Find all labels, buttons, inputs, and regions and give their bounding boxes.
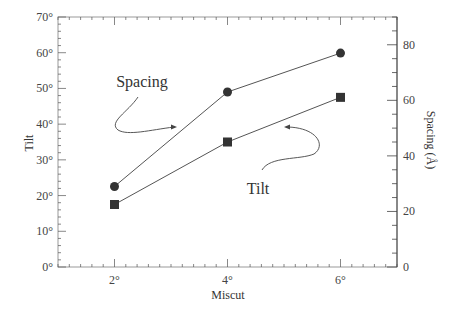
y-tick-label: 40° <box>36 117 53 131</box>
y-tick-label: 50° <box>36 81 53 95</box>
annotation-spacing-arrow <box>115 97 174 133</box>
x-tick-label: 4° <box>222 273 233 287</box>
y2-tick-label: 80 <box>403 38 415 52</box>
y2-tick-label: 20 <box>403 204 415 218</box>
circle-marker-icon <box>110 182 119 191</box>
annotation-tilt-arrow <box>262 127 319 170</box>
chart: 2°4°6°0°10°20°30°40°50°60°70°020406080 M… <box>0 0 455 311</box>
x-axis-label: Miscut <box>211 288 245 302</box>
circle-marker-icon <box>336 49 345 58</box>
series-line-tilt <box>115 97 341 204</box>
square-marker-icon <box>110 200 119 209</box>
arrowhead-icon <box>171 125 177 130</box>
y-tick-label: 70° <box>36 10 53 24</box>
arrowhead-icon <box>284 125 290 130</box>
y-tick-label: 0° <box>42 260 53 274</box>
x-tick-label: 2° <box>109 273 120 287</box>
circle-marker-icon <box>223 88 232 97</box>
x-tick-label: 6° <box>335 273 346 287</box>
annotation-spacing-label: Spacing <box>116 73 168 91</box>
square-marker-icon <box>223 138 232 147</box>
y-tick-label: 60° <box>36 46 53 60</box>
y-tick-label: 10° <box>36 224 53 238</box>
y-tick-label: 30° <box>36 153 53 167</box>
y-tick-label: 20° <box>36 189 53 203</box>
y-axis-label: Tilt <box>22 134 36 152</box>
y2-tick-label: 60 <box>403 93 415 107</box>
y2-tick-label: 0 <box>403 260 409 274</box>
y2-tick-label: 40 <box>403 149 415 163</box>
y2-axis-label: Spacing (Å) <box>424 111 438 169</box>
annotation-tilt-label: Tilt <box>247 180 270 197</box>
square-marker-icon <box>336 93 345 102</box>
tick-labels: 2°4°6°0°10°20°30°40°50°60°70°020406080 <box>36 10 415 287</box>
